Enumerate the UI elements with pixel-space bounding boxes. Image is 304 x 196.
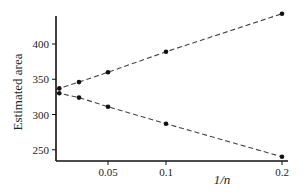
y-tick-label: 250 [33,144,50,156]
y-tick-label: 300 [33,109,50,121]
series-markers [57,11,284,159]
y-axis-title: Estimated area [10,53,25,130]
x-tick-label: 0.05 [98,166,118,178]
data-point [280,11,285,16]
x-tick-label: 0.2 [275,166,289,178]
data-point [57,91,62,96]
data-point [106,104,111,109]
x-tick-label: 0.1 [159,166,173,178]
data-point [106,70,111,75]
data-point [164,121,169,126]
series-lines [56,14,282,157]
series-line-upper [56,14,282,90]
y-tick-label: 400 [33,38,50,50]
x-axis-title: 1/n [214,172,231,187]
data-point [164,50,169,55]
data-point [77,95,82,100]
data-point [280,155,285,160]
y-axis-ticks: 250300350400 [33,38,57,156]
series-line-lower [56,93,282,157]
data-point [77,80,82,85]
data-point [57,86,62,91]
line-chart: 250300350400 0.050.10.2 Estimated area 1… [0,0,304,196]
x-axis-ticks: 0.050.10.2 [98,161,289,178]
y-tick-label: 350 [33,73,50,85]
